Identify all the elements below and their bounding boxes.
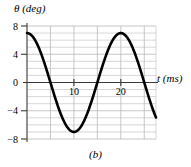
y-tick-labels: 8 4 0 −4 −8 xyxy=(7,21,18,145)
figure-panel: θ (deg) t (ms) xyxy=(0,0,191,167)
axis-lines xyxy=(27,23,158,142)
y-axis-ticks xyxy=(21,26,27,139)
y-tick-label-4: 4 xyxy=(13,49,18,60)
y-tick-label-neg4: −4 xyxy=(7,105,18,116)
x-tick-label-20: 20 xyxy=(116,86,126,97)
x-tick-label-10: 10 xyxy=(69,86,79,97)
y-tick-label-neg8: −8 xyxy=(7,134,18,145)
y-tick-label-0: 0 xyxy=(13,77,18,88)
y-tick-label-8: 8 xyxy=(13,21,18,32)
figure-caption: (b) xyxy=(0,148,191,160)
chart-svg: 8 4 0 −4 −8 10 20 xyxy=(0,0,191,167)
